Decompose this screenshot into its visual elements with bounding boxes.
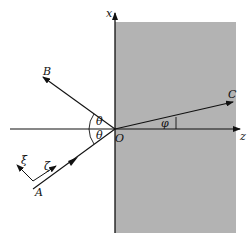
reflection-angle-label: θ [96, 115, 103, 128]
z-axis-label: z [239, 130, 246, 143]
ray-c-label: C [228, 88, 237, 101]
transmission-angle-label: φ [161, 117, 169, 130]
incidence-angle-arc [89, 129, 94, 144]
reflected-ray [43, 77, 115, 129]
ray-a-label: A [34, 186, 43, 199]
origin-label: O [115, 132, 124, 145]
zeta-label: ζ [44, 160, 51, 173]
xi-axis [17, 165, 33, 181]
xi-label: ξ [21, 154, 28, 167]
incident-ray-arrow-icon [68, 157, 78, 166]
x-axis-label: x [106, 7, 113, 20]
incidence-angle-label: θ [96, 129, 103, 142]
reflection-angle-arc [89, 114, 94, 129]
wave-reflection-diagram: x z O B C A θ θ φ ξ ζ [0, 0, 250, 243]
shaded-medium-region [115, 22, 236, 233]
ray-b-label: B [42, 65, 51, 78]
